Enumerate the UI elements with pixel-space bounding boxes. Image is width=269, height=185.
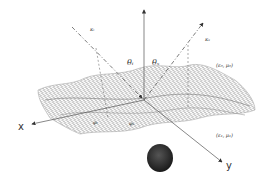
- scattered-wave-label: κₛ: [205, 36, 210, 42]
- theta-scattered-label: θₛ: [152, 58, 160, 67]
- buried-object: [147, 144, 173, 172]
- incident-wave-label: κᵢ: [90, 26, 94, 32]
- rough-surface: [38, 64, 255, 134]
- x-axis-label: x: [18, 121, 24, 132]
- theta-incident-label: θᵢ: [127, 58, 133, 67]
- phi-incident-label: φᵢ: [93, 119, 98, 125]
- scattering-diagram: [0, 0, 269, 185]
- y-axis-label: y: [226, 160, 232, 171]
- upper-medium-label: (ε₀, μ₀): [216, 62, 233, 68]
- phi-scattered-label: φₛ: [129, 120, 134, 126]
- lower-medium-label: (ε₁, μ₁): [216, 132, 233, 138]
